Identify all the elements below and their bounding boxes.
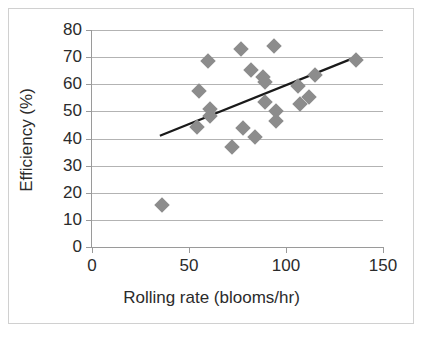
y-tick-label: 20 xyxy=(40,183,82,203)
x-tick-mark xyxy=(92,247,93,253)
y-tick-label: 60 xyxy=(40,74,82,94)
y-tick-label: 70 xyxy=(40,47,82,67)
y-tick-label: 0 xyxy=(40,237,82,257)
x-tick-mark xyxy=(189,247,190,253)
x-tick-mark xyxy=(286,247,287,253)
plot-area xyxy=(92,30,383,247)
y-axis-title: Efficiency (%) xyxy=(17,50,37,230)
x-tick-label: 0 xyxy=(87,256,96,276)
chart-figure: Efficiency (%) 80 70 60 50 40 30 20 10 0… xyxy=(0,0,423,341)
x-axis-line xyxy=(92,247,383,248)
y-tick-label: 40 xyxy=(40,129,82,149)
x-axis-title: Rolling rate (blooms/hr) xyxy=(0,288,423,308)
x-tick-label: 50 xyxy=(180,256,199,276)
y-tick-label: 80 xyxy=(40,20,82,40)
y-tick-label: 10 xyxy=(40,210,82,230)
x-tick-label: 100 xyxy=(272,256,300,276)
y-tick-label: 30 xyxy=(40,156,82,176)
x-tick-label: 150 xyxy=(369,256,397,276)
y-tick-label: 50 xyxy=(40,101,82,121)
x-tick-mark xyxy=(383,247,384,253)
trendline xyxy=(92,30,383,247)
